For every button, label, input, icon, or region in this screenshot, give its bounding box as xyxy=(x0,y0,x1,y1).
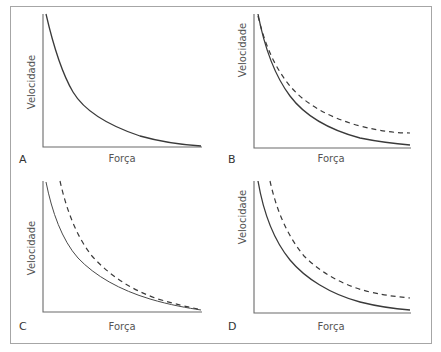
panel-label: A xyxy=(19,153,27,166)
panel-a: Velocidade Força A xyxy=(19,14,202,166)
y-axis xyxy=(254,181,411,313)
curve-solid xyxy=(46,182,201,310)
y-axis-label: Velocidade xyxy=(237,190,248,244)
x-axis-label: Força xyxy=(317,321,344,332)
curve-dashed xyxy=(60,181,198,309)
curve-solid xyxy=(258,14,410,145)
panel-d: Velocidade Força D xyxy=(228,181,411,333)
panel-b: Velocidade Força B xyxy=(228,14,411,166)
panel-label: D xyxy=(228,320,236,333)
panel-c: Velocidade Força C xyxy=(19,181,202,333)
x-axis-label: Força xyxy=(317,153,344,164)
y-axis-label: Velocidade xyxy=(26,221,37,275)
x-axis-label: Força xyxy=(108,321,135,332)
curve-dashed xyxy=(258,16,410,133)
figure-canvas: Velocidade Força A Velocidade Força B Ve… xyxy=(0,0,441,352)
x-axis-label: Força xyxy=(108,153,135,164)
curve-solid xyxy=(258,181,410,310)
y-axis xyxy=(43,181,202,312)
panel-label: B xyxy=(228,153,236,166)
panel-label: C xyxy=(19,320,27,333)
y-axis-label: Velocidade xyxy=(237,23,248,77)
curve-solid xyxy=(46,14,201,146)
curve-dashed xyxy=(270,181,410,298)
y-axis-label: Velocidade xyxy=(26,55,37,109)
